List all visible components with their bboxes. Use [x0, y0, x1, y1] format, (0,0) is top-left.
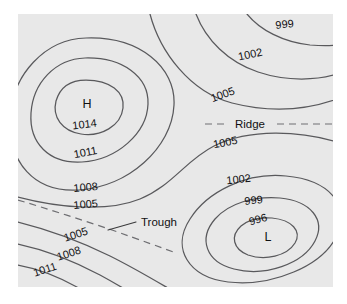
isobar-map-canvas: 999 1002 1005 1014 1011 1008 1005 1005 1…	[0, 0, 347, 304]
isobar-label-1002-low: 1002	[226, 172, 252, 186]
isobar-label-1005-high: 1005	[73, 197, 98, 211]
isobar-label-999-low: 999	[244, 193, 264, 207]
isobar-label-1008-high: 1008	[73, 180, 98, 194]
map-plate-background	[18, 14, 333, 287]
weather-isobar-map-figure: 999 1002 1005 1014 1011 1008 1005 1005 1…	[0, 0, 347, 304]
isobar-label-999-top-right: 999	[275, 17, 295, 31]
low-pressure-center-label: L	[265, 230, 272, 244]
ridge-label-overlay: Ridge	[235, 118, 265, 130]
high-pressure-center-label: H	[82, 97, 91, 111]
trough-label: Trough	[141, 216, 177, 228]
